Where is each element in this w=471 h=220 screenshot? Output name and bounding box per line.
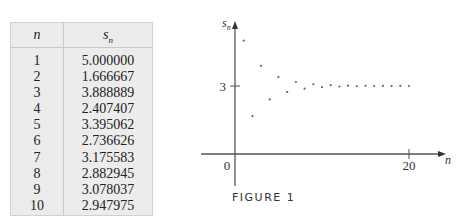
x-tick-label: 20 — [403, 158, 416, 173]
y-axis-label: sn — [222, 16, 231, 32]
data-point — [338, 85, 340, 87]
data-point — [356, 85, 358, 87]
data-point — [321, 86, 323, 88]
data-point — [382, 85, 384, 87]
x-axis-label: n — [445, 153, 451, 167]
data-point — [391, 85, 393, 87]
data-point — [312, 83, 314, 85]
data-point — [373, 85, 375, 87]
data-point — [277, 76, 279, 78]
data-point — [260, 65, 262, 67]
data-point — [347, 85, 349, 87]
data-point — [251, 115, 253, 117]
data-points — [243, 40, 411, 118]
x-tick-label: 0 — [224, 158, 231, 173]
data-point — [399, 85, 401, 87]
data-point — [408, 85, 410, 87]
data-point — [330, 84, 332, 86]
y-axis-arrow — [232, 21, 238, 29]
y-axis-label-sub: n — [227, 23, 231, 32]
figure-caption: FIGURE 1 — [232, 191, 295, 204]
sequence-plot: 0203nsn — [0, 0, 471, 220]
data-point — [295, 81, 297, 83]
data-point — [304, 88, 306, 90]
axes: 0203nsn — [201, 16, 451, 186]
data-point — [286, 91, 288, 93]
data-point — [243, 40, 245, 42]
data-point — [364, 85, 366, 87]
y-tick-label: 3 — [220, 79, 227, 94]
data-point — [269, 98, 271, 100]
